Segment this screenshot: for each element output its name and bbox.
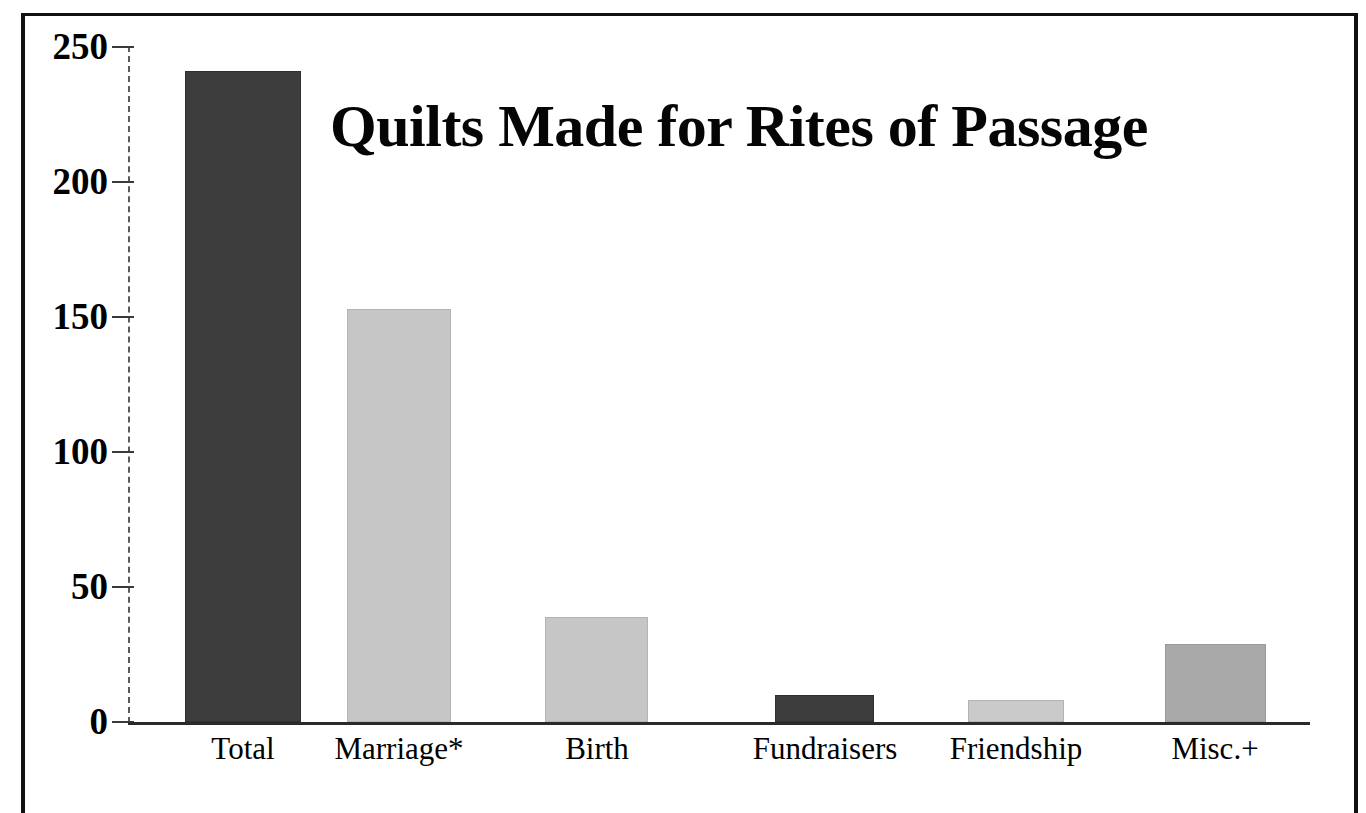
chart-title: Quilts Made for Rites of Passage [330,92,1350,161]
x-label-total: Total [163,732,323,766]
x-label-friendship: Friendship [926,732,1106,766]
figure-footnote [30,792,1230,808]
bar-misc [1165,644,1266,722]
y-tick-100 [112,451,134,453]
x-label-misc: Misc.+ [1135,732,1295,766]
x-label-birth: Birth [517,732,677,766]
y-tick-50 [112,586,134,588]
y-axis-spine [128,46,130,723]
y-tick-label-50: 50 [4,568,108,605]
y-tick-label-100: 100 [4,433,108,470]
y-tick-label-150: 150 [4,298,108,335]
y-tick-150 [112,316,134,318]
y-tick-label-0: 0 [4,703,108,740]
bar-fundraisers [775,695,874,722]
x-label-marriage: Marriage* [319,732,479,766]
x-label-fundraisers: Fundraisers [735,732,915,766]
bar-friendship [968,700,1064,722]
bar-birth [545,617,648,722]
y-tick-label-200: 200 [4,163,108,200]
bar-total [185,71,301,722]
y-tick-200 [112,181,134,183]
y-tick-label-250: 250 [4,28,108,65]
bar-marriage [347,309,451,722]
y-tick-250 [112,46,134,48]
x-axis-line [128,722,1310,725]
